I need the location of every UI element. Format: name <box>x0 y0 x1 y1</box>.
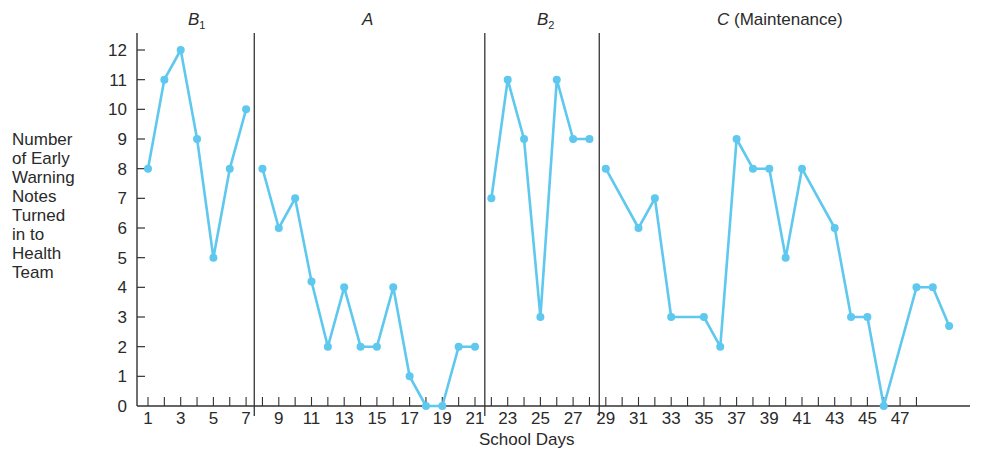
data-point <box>226 165 234 173</box>
x-tick-label: 3 <box>176 409 185 428</box>
data-point <box>929 283 937 291</box>
x-tick-label: 27 <box>564 409 583 428</box>
data-point <box>733 135 741 143</box>
x-tick-label: 17 <box>400 409 419 428</box>
data-point <box>144 165 152 173</box>
data-point <box>193 135 201 143</box>
x-tick-label: 9 <box>274 409 283 428</box>
data-point <box>716 343 724 351</box>
line-chart: 0123456789101112135791113151719212325272… <box>0 0 984 461</box>
y-tick-label: 10 <box>108 100 127 119</box>
x-tick-label: 41 <box>793 409 812 428</box>
data-point <box>863 313 871 321</box>
y-tick-label: 0 <box>118 397 127 416</box>
data-point <box>357 343 365 351</box>
data-line <box>263 169 476 406</box>
data-point <box>389 283 397 291</box>
x-tick-label: 15 <box>367 409 386 428</box>
data-point <box>765 165 773 173</box>
y-tick-label: 9 <box>118 130 127 149</box>
data-point <box>585 135 593 143</box>
data-point <box>471 343 479 351</box>
x-tick-label: 19 <box>433 409 452 428</box>
data-point <box>831 224 839 232</box>
y-tick-label: 1 <box>118 367 127 386</box>
y-tick-label: 2 <box>118 338 127 357</box>
x-tick-label: 43 <box>825 409 844 428</box>
data-point <box>945 322 953 330</box>
data-point <box>308 277 316 285</box>
data-point <box>569 135 577 143</box>
y-tick-label: 11 <box>109 71 127 90</box>
data-line <box>491 80 589 317</box>
data-point <box>291 194 299 202</box>
data-point <box>177 46 185 54</box>
data-point <box>602 165 610 173</box>
y-tick-label: 6 <box>118 219 127 238</box>
data-point <box>749 165 757 173</box>
data-line <box>606 139 949 406</box>
data-point <box>700 313 708 321</box>
y-tick-label: 3 <box>118 308 127 327</box>
data-point <box>520 135 528 143</box>
data-point <box>324 343 332 351</box>
x-tick-label: 23 <box>498 409 517 428</box>
data-point <box>422 402 430 410</box>
y-tick-label: 4 <box>118 278 127 297</box>
x-tick-label: 37 <box>727 409 746 428</box>
data-point <box>798 165 806 173</box>
data-point <box>160 76 168 84</box>
data-point <box>667 313 675 321</box>
data-point <box>438 402 446 410</box>
x-tick-label: 31 <box>629 409 648 428</box>
data-point <box>373 343 381 351</box>
data-point <box>782 254 790 262</box>
y-tick-label: 8 <box>118 160 127 179</box>
x-tick-label: 5 <box>209 409 218 428</box>
data-point <box>242 105 250 113</box>
x-tick-label: 33 <box>662 409 681 428</box>
x-tick-label: 47 <box>891 409 910 428</box>
x-tick-label: 13 <box>335 409 354 428</box>
x-tick-label: 7 <box>241 409 250 428</box>
data-point <box>880 402 888 410</box>
x-tick-label: 11 <box>303 409 321 428</box>
data-point <box>553 76 561 84</box>
y-tick-label: 7 <box>118 189 127 208</box>
x-tick-label: 45 <box>858 409 877 428</box>
data-point <box>651 194 659 202</box>
data-point <box>209 254 217 262</box>
x-tick-label: 1 <box>143 409 152 428</box>
data-point <box>406 372 414 380</box>
data-point <box>504 76 512 84</box>
data-point <box>635 224 643 232</box>
y-tick-label: 5 <box>118 249 127 268</box>
data-point <box>912 283 920 291</box>
data-point <box>455 343 463 351</box>
data-point <box>258 165 266 173</box>
data-point <box>536 313 544 321</box>
x-tick-label: 25 <box>531 409 550 428</box>
data-point <box>275 224 283 232</box>
y-tick-label: 12 <box>108 41 127 60</box>
x-tick-label: 39 <box>760 409 779 428</box>
data-point <box>847 313 855 321</box>
x-tick-label: 21 <box>466 409 485 428</box>
data-point <box>340 283 348 291</box>
x-tick-label: 35 <box>694 409 713 428</box>
data-point <box>487 194 495 202</box>
